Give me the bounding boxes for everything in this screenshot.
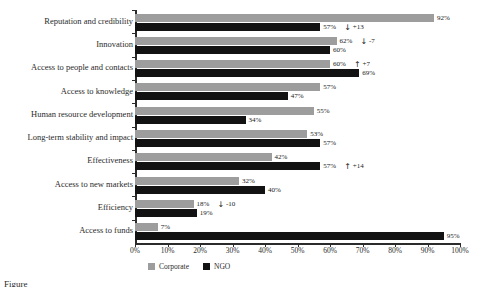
value-axis-tick-label: 10% <box>161 246 175 256</box>
value-label-ngo: 47% <box>291 92 304 100</box>
value-label-corporate: 18% <box>197 200 210 208</box>
horizontal-bar-chart: Reputation and credibilityInnovationAcce… <box>0 0 478 287</box>
arrow-up-icon: ↑ <box>354 60 361 69</box>
bar-group: 57%47% <box>135 82 460 103</box>
category-axis-tick <box>132 196 136 197</box>
delta-annotation: ↑ +7 <box>354 60 370 69</box>
bar-ngo <box>135 46 330 54</box>
delta-value: -7 <box>367 37 375 45</box>
arrow-up-icon: ↑ <box>344 162 351 171</box>
value-label-corporate: 32% <box>242 177 255 185</box>
bar-corporate <box>135 200 194 208</box>
value-label-ngo: 57% <box>323 162 336 170</box>
bar-ngo <box>135 92 288 100</box>
bar-corporate <box>135 37 337 45</box>
value-label-corporate: 42% <box>275 153 288 161</box>
category-label: Efficiency <box>0 202 133 212</box>
value-axis-tick-label: 90% <box>421 246 435 256</box>
legend-swatch <box>203 263 210 270</box>
legend-label: NGO <box>214 262 230 271</box>
legend-item: Corporate <box>148 262 189 271</box>
bar-group: 92%57%↓ +13 <box>135 13 460 34</box>
legend-swatch <box>148 263 155 270</box>
value-label-corporate: 7% <box>161 223 170 231</box>
delta-annotation: ↓ -10 <box>218 200 236 209</box>
bar-group: 53%57% <box>135 129 460 150</box>
bar-corporate <box>135 223 158 231</box>
value-label-corporate: 92% <box>437 14 450 22</box>
category-axis-tick <box>132 10 136 11</box>
value-label-ngo: 40% <box>268 186 281 194</box>
value-axis-tick-labels: 0%10%20%30%40%50%60%70%80%90%100% <box>135 246 460 258</box>
category-label: Effectiveness <box>0 155 133 165</box>
category-label: Access to people and contacts <box>0 62 133 72</box>
bar-group: 7%95% <box>135 222 460 243</box>
value-axis-tick-label: 80% <box>388 246 402 256</box>
value-label-corporate: 57% <box>323 83 336 91</box>
delta-value: +13 <box>351 23 364 31</box>
value-axis-tick-label: 50% <box>291 246 305 256</box>
bar-ngo <box>135 23 320 31</box>
value-axis-tick-label: 70% <box>356 246 370 256</box>
bar-group: 32%40% <box>135 176 460 197</box>
category-axis-labels: Reputation and credibilityInnovationAcce… <box>0 10 133 243</box>
delta-annotation: ↓ +13 <box>344 23 363 32</box>
value-label-ngo: 57% <box>323 139 336 147</box>
category-axis-tick <box>132 150 136 151</box>
category-axis-tick <box>132 57 136 58</box>
bar-group: 42%57%↑ +14 <box>135 152 460 173</box>
legend-item: NGO <box>203 262 230 271</box>
value-label-ngo: 60% <box>333 46 346 54</box>
bar-corporate <box>135 177 239 185</box>
bar-ngo <box>135 139 320 147</box>
bar-ngo <box>135 162 320 170</box>
bar-group: 18%19%↓ -10 <box>135 199 460 220</box>
delta-value: +14 <box>351 162 364 170</box>
category-label: Access to new markets <box>0 179 133 189</box>
category-axis-tick <box>132 103 136 104</box>
bar-ngo <box>135 116 246 124</box>
plot-area: 92%57%↓ +1362%60%↓ -760%69%↑ +757%47%55%… <box>135 10 460 243</box>
category-label: Long-term stability and impact <box>0 132 133 142</box>
category-axis-tick <box>132 80 136 81</box>
bar-ngo <box>135 186 265 194</box>
value-axis-tick-label: 60% <box>323 246 337 256</box>
category-label: Reputation and credibility <box>0 16 133 26</box>
category-axis-tick <box>132 173 136 174</box>
figure-caption: Figure <box>4 279 28 287</box>
category-axis-tick <box>132 33 136 34</box>
chart-legend: CorporateNGO <box>148 262 230 271</box>
bar-corporate <box>135 14 434 22</box>
bar-ngo <box>135 232 444 240</box>
bar-group: 55%34% <box>135 106 460 127</box>
category-label: Innovation <box>0 39 133 49</box>
category-label: Human resource development <box>0 109 133 119</box>
category-axis-tick <box>132 127 136 128</box>
delta-value: -10 <box>224 200 235 208</box>
value-label-ngo: 19% <box>200 209 213 217</box>
value-axis-tick-label: 30% <box>226 246 240 256</box>
value-label-ngo: 69% <box>362 69 375 77</box>
arrow-down-icon: ↓ <box>344 23 351 32</box>
value-label-ngo: 57% <box>323 23 336 31</box>
legend-label: Corporate <box>159 262 189 271</box>
bar-corporate <box>135 153 272 161</box>
value-axis-tick-label: 20% <box>193 246 207 256</box>
value-axis-tick-label: 0% <box>130 246 140 256</box>
value-label-ngo: 34% <box>249 116 262 124</box>
value-label-corporate: 62% <box>340 37 353 45</box>
bar-ngo <box>135 69 359 77</box>
bar-corporate <box>135 83 320 91</box>
value-label-corporate: 55% <box>317 107 330 115</box>
value-axis-tick-label: 100% <box>451 246 469 256</box>
value-label-corporate: 60% <box>333 60 346 68</box>
bar-ngo <box>135 209 197 217</box>
category-axis-tick <box>132 220 136 221</box>
category-label: Access to knowledge <box>0 86 133 96</box>
delta-value: +7 <box>361 60 370 68</box>
category-label: Access to funds <box>0 225 133 235</box>
delta-annotation: ↓ -7 <box>361 37 375 46</box>
bar-corporate <box>135 60 330 68</box>
bar-corporate <box>135 107 314 115</box>
value-label-ngo: 95% <box>447 232 460 240</box>
